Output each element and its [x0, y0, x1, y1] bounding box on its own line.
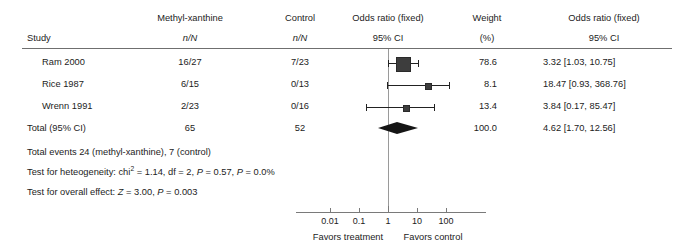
x-tick-10	[417, 208, 418, 212]
x-tick-label-0: 0.01	[321, 216, 339, 226]
row-treatment-0: 16/27	[178, 57, 201, 68]
header-study: Study	[27, 33, 51, 44]
heterogeneity-prefix: Test for heteogeneity: chi	[27, 167, 130, 177]
effect-marker-0	[396, 57, 411, 72]
ci-cap-right-1	[449, 82, 450, 89]
row-effect-0: 3.32 [1.03, 10.75]	[543, 57, 615, 68]
overall-p-value: = 0.003	[164, 187, 198, 197]
x-tick-label-3: 10	[412, 216, 422, 226]
heterogeneity-line: Test for heteogeneity: chi2 = 1.14, df =…	[27, 167, 275, 178]
header-plot-title: Odds ratio (fixed)	[352, 13, 423, 24]
x-tick-label-1: 0.1	[353, 216, 366, 226]
total-events-line: Total events 24 (methyl-xanthine), 7 (co…	[27, 147, 211, 158]
row-control-1: 0/13	[291, 79, 309, 90]
effect-marker-1	[425, 83, 432, 90]
row-study-2: Wrenn 1991	[42, 101, 92, 112]
overall-z-value: = 3.00,	[123, 187, 157, 197]
row-study-0: Ram 2000	[42, 57, 85, 68]
null-reference-line	[388, 49, 389, 213]
total-control-n: 52	[295, 123, 305, 134]
row-control-2: 0/16	[291, 101, 309, 112]
ci-line-0	[388, 63, 419, 64]
heterogeneity-rest: = 1.14, df = 2,	[134, 167, 197, 177]
heterogeneity-i2-value: = 0.0%	[243, 167, 275, 177]
header-weight-title: Weight	[473, 13, 502, 24]
forest-plot-figure: Methyl-xanthine Control Odds ratio (fixe…	[0, 0, 686, 250]
header-treatment-group: Methyl-xanthine	[157, 13, 223, 24]
header-control-group: Control	[285, 13, 315, 24]
x-tick-label-4: 100	[438, 216, 453, 226]
row-weight-0: 78.6	[479, 57, 497, 68]
ci-cap-left-0	[388, 60, 389, 67]
row-effect-2: 3.84 [0.17, 85.47]	[543, 101, 615, 112]
heterogeneity-p-value: = 0.57,	[203, 167, 237, 177]
total-treatment-n: 65	[185, 123, 195, 134]
x-tick-100	[446, 208, 447, 212]
header-effect-subtitle: 95% CI	[589, 33, 620, 44]
effect-marker-2	[403, 105, 410, 112]
header-separator-rule	[22, 48, 672, 49]
total-weight: 100.0	[474, 123, 497, 134]
favors-control-caption: Favors control	[404, 232, 463, 243]
row-treatment-1: 6/15	[181, 79, 199, 90]
summary-diamond	[378, 121, 418, 135]
header-control-unit: n/N	[293, 33, 307, 44]
total-effect: 4.62 [1.70, 12.56]	[543, 123, 615, 134]
header-weight-subtitle: (%)	[480, 33, 494, 44]
overall-prefix: Test for overall effect:	[27, 187, 118, 197]
row-treatment-2: 2/23	[181, 101, 199, 112]
ci-cap-right-0	[418, 60, 419, 67]
ci-cap-right-2	[434, 104, 435, 111]
header-plot-subtitle: 95% CI	[373, 33, 404, 44]
overall-effect-line: Test for overall effect: Z = 3.00, P = 0…	[27, 187, 197, 198]
row-effect-1: 18.47 [0.93, 368.76]	[543, 79, 626, 90]
ci-cap-left-1	[387, 82, 388, 89]
x-tick-1	[388, 206, 389, 212]
total-row-label: Total (95% CI)	[27, 123, 86, 134]
header-treatment-unit: n/N	[183, 33, 197, 44]
row-study-1: Rice 1987	[42, 79, 84, 90]
x-tick-0.01	[330, 208, 331, 212]
x-axis-line	[296, 212, 486, 213]
favors-treatment-caption: Favors treatment	[313, 232, 383, 243]
ci-line-1	[387, 85, 449, 86]
header-effect-title: Odds ratio (fixed)	[568, 13, 639, 24]
x-tick-label-2: 1	[385, 216, 390, 226]
row-weight-2: 13.4	[479, 101, 497, 112]
ci-line-2	[366, 107, 434, 108]
row-control-0: 7/23	[291, 57, 309, 68]
row-weight-1: 8.1	[484, 79, 497, 90]
ci-cap-left-2	[366, 104, 367, 111]
x-tick-0.1	[359, 208, 360, 212]
